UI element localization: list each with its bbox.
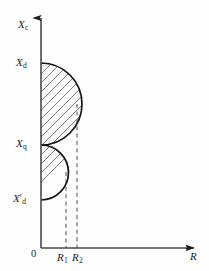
- tick-label-xq: Xq: [16, 138, 26, 149]
- tick-label-xd: Xd: [16, 57, 26, 68]
- axis-label-xc: Xc: [18, 19, 28, 30]
- tick-label-r1: R1: [57, 252, 67, 263]
- tick-label-r2: R2: [72, 252, 82, 263]
- diagram-canvas: [0, 0, 209, 271]
- axis-label-r: R: [190, 251, 197, 262]
- tick-label-xd-prime: X′d: [13, 193, 26, 204]
- origin-label: 0: [31, 248, 36, 259]
- figure-root: Xc Xd Xq X′d 0 R1 R2 R: [0, 0, 209, 271]
- hatching-large: [0, 0, 110, 206]
- small-semicircle-arc: [41, 145, 69, 200]
